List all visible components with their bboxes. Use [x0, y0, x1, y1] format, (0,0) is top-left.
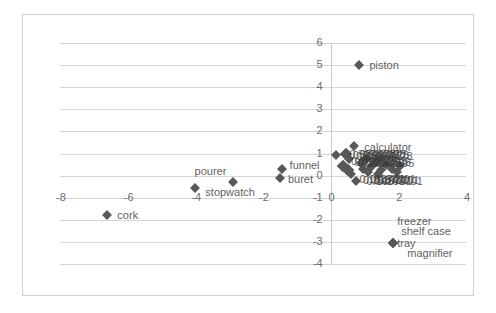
- y-axis-tick-label: -1: [297, 192, 323, 203]
- x-axis-tick-label: -4: [187, 192, 205, 203]
- gridline-horizontal: [60, 109, 466, 110]
- gridline-horizontal: [60, 264, 466, 265]
- gridline-horizontal: [60, 43, 466, 44]
- data-point-marker: [275, 173, 285, 183]
- data-point-label: magnifier: [407, 248, 452, 259]
- y-axis-tick-label: 2: [297, 125, 323, 136]
- y-axis-tick-label: 3: [297, 103, 323, 114]
- x-axis-tick-label: -6: [120, 192, 138, 203]
- data-point-label: buret: [288, 174, 313, 185]
- y-axis-tick-label: 5: [297, 59, 323, 70]
- gridline-horizontal: [60, 131, 466, 132]
- x-axis-tick-label: -8: [52, 192, 70, 203]
- y-axis-tick-label: 4: [297, 81, 323, 92]
- data-point-label: piston: [369, 60, 398, 71]
- gridline-horizontal: [60, 65, 466, 66]
- gridline-horizontal: [60, 87, 466, 88]
- data-point-marker: [331, 150, 341, 160]
- data-point-label: cork: [117, 210, 138, 221]
- cluster-overlap-label: 0.163701: [377, 176, 423, 187]
- y-axis-tick-label: 1: [297, 148, 323, 159]
- y-axis-tick-label: -4: [297, 258, 323, 269]
- data-point-marker: [354, 60, 364, 70]
- y-axis-tick-label: 6: [297, 37, 323, 48]
- scatter-plot: 6543210-1-2-3-4-8-6-4-2024pistoncorkstop…: [0, 0, 496, 313]
- x-axis-tick-label: 2: [390, 192, 408, 203]
- x-axis-tick-label: 0: [323, 192, 341, 203]
- x-axis-tick-label: 4: [458, 192, 476, 203]
- data-point-label: stopwatch: [205, 187, 255, 198]
- x-axis-tick-label: -2: [255, 192, 273, 203]
- data-point-marker: [277, 164, 287, 174]
- data-point-label: funnel: [290, 160, 320, 171]
- cluster-overlap-label: 0.299595: [368, 158, 414, 169]
- data-point-label: pourer: [195, 166, 227, 177]
- data-point-marker: [102, 210, 112, 220]
- data-point-label: shelf case: [401, 226, 451, 237]
- y-axis-tick-label: -3: [297, 236, 323, 247]
- y-axis-tick-label: -2: [297, 214, 323, 225]
